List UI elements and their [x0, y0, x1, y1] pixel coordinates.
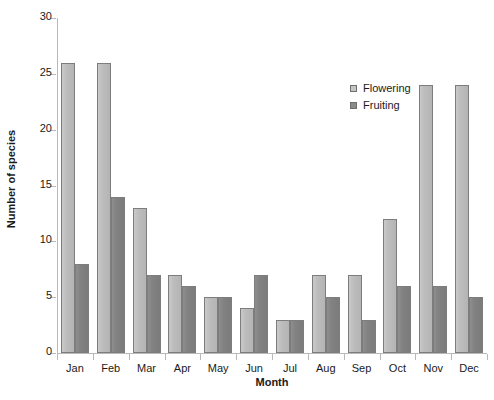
bar-jun-fruiting [254, 275, 268, 353]
bar-oct-flowering [383, 219, 397, 353]
bar-chart: Number of species 051015202530 JanFebMar… [0, 0, 494, 400]
x-axis-tick-mark [308, 354, 309, 360]
bar-jul-flowering [276, 320, 290, 354]
y-axis-tick: 15 [57, 186, 58, 187]
bar-sep-fruiting [362, 320, 376, 354]
bar-dec-fruiting [469, 297, 483, 353]
bar-group [455, 18, 483, 353]
bar-apr-flowering [168, 275, 182, 353]
bar-jun-flowering [240, 308, 254, 353]
x-axis-tick-mark [236, 354, 237, 360]
bar-dec-flowering [455, 85, 469, 353]
bar-apr-fruiting [182, 286, 196, 353]
x-axis-title: Month [57, 376, 487, 388]
bar-group [97, 18, 125, 353]
bar-group [204, 18, 232, 353]
x-axis-tick-mark [165, 354, 166, 360]
x-axis-tick-mark [129, 354, 130, 360]
y-axis-tick-label: 25 [40, 66, 52, 78]
x-axis-label-sep: Sep [344, 362, 380, 374]
bar-group [383, 18, 411, 353]
x-axis-label-apr: Apr [165, 362, 201, 374]
bar-may-flowering [204, 297, 218, 353]
x-axis-label-feb: Feb [93, 362, 129, 374]
bar-group [348, 18, 376, 353]
chart-legend: FloweringFruiting [350, 80, 411, 114]
x-axis-label-aug: Aug [308, 362, 344, 374]
x-axis-tick-mark [487, 354, 488, 360]
x-axis-label-dec: Dec [451, 362, 487, 374]
bar-jul-fruiting [290, 320, 304, 354]
y-axis-tick-label: 15 [40, 178, 52, 190]
legend-item-fruiting: Fruiting [350, 97, 411, 114]
bar-feb-fruiting [111, 197, 125, 353]
bar-mar-fruiting [147, 275, 161, 353]
x-axis-label-oct: Oct [380, 362, 416, 374]
bar-group [276, 18, 304, 353]
bar-group [240, 18, 268, 353]
bar-sep-flowering [348, 275, 362, 353]
bar-group [419, 18, 447, 353]
x-axis-tick-mark [415, 354, 416, 360]
x-axis-tick-mark [272, 354, 273, 360]
x-axis-label-nov: Nov [415, 362, 451, 374]
bar-feb-flowering [97, 63, 111, 353]
legend-label: Flowering [363, 80, 411, 97]
bar-mar-flowering [133, 208, 147, 353]
x-axis-tick-mark [344, 354, 345, 360]
x-axis-tick-mark [200, 354, 201, 360]
x-axis-label-jan: Jan [57, 362, 93, 374]
bar-group [312, 18, 340, 353]
bar-aug-flowering [312, 275, 326, 353]
bar-group [168, 18, 196, 353]
y-axis-tick: 30 [57, 18, 58, 19]
y-axis-title: Number of species [0, 0, 22, 358]
y-axis-tick-label: 5 [46, 289, 52, 301]
y-axis-title-label: Number of species [5, 130, 17, 228]
x-axis-tick-mark [380, 354, 381, 360]
bar-aug-fruiting [326, 297, 340, 353]
bar-oct-fruiting [397, 286, 411, 353]
bar-jan-flowering [61, 63, 75, 353]
legend-label: Fruiting [363, 97, 400, 114]
bar-jan-fruiting [75, 264, 89, 353]
bar-nov-fruiting [433, 286, 447, 353]
y-axis-tick: 20 [57, 130, 58, 131]
x-axis-label-mar: Mar [129, 362, 165, 374]
y-axis-tick: 25 [57, 74, 58, 75]
bar-group [133, 18, 161, 353]
y-axis-tick: 10 [57, 241, 58, 242]
y-axis-tick-label: 30 [40, 10, 52, 22]
x-axis-label-jul: Jul [272, 362, 308, 374]
legend-item-flowering: Flowering [350, 80, 411, 97]
x-axis-label-jun: Jun [236, 362, 272, 374]
y-axis-tick-label: 20 [40, 122, 52, 134]
bar-nov-flowering [419, 85, 433, 353]
x-axis-tick-mark [93, 354, 94, 360]
x-axis-tick-mark [57, 354, 58, 360]
x-axis-label-may: May [200, 362, 236, 374]
bar-may-fruiting [218, 297, 232, 353]
y-axis-tick-label: 10 [40, 233, 52, 245]
y-axis-tick-label: 0 [46, 345, 52, 357]
x-axis-tick-mark [451, 354, 452, 360]
legend-swatch-icon [350, 85, 357, 92]
bar-group [61, 18, 89, 353]
plot-area: 051015202530 JanFebMarAprMayJunJulAugSep… [57, 18, 487, 354]
legend-swatch-icon [350, 102, 357, 109]
y-axis-tick: 5 [57, 297, 58, 298]
